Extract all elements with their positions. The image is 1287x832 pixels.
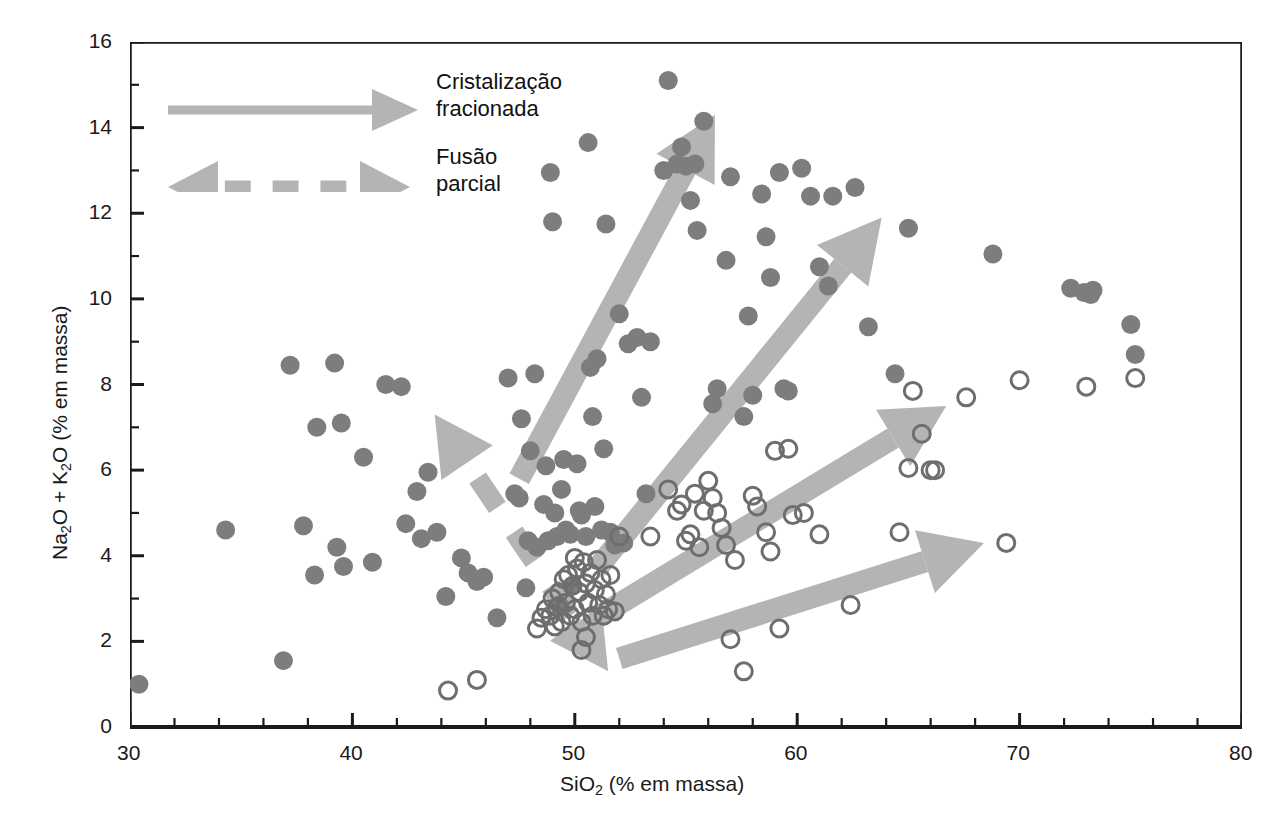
- data-point-open: [735, 663, 752, 680]
- data-point-filled: [1121, 315, 1140, 334]
- y-axis-title-sub-a: 2: [58, 525, 74, 533]
- data-point-filled: [332, 414, 351, 433]
- data-point-filled: [801, 187, 820, 206]
- data-point-filled: [510, 488, 529, 507]
- data-point-filled: [819, 277, 838, 296]
- data-point-open: [660, 481, 677, 498]
- chart-root: Na2O + K2O (% em massa) SiO2 (% em massa…: [0, 0, 1287, 832]
- data-point-open: [1078, 378, 1095, 395]
- data-point-filled: [823, 187, 842, 206]
- data-point-filled: [659, 71, 678, 90]
- data-point-filled: [761, 268, 780, 287]
- data-point-filled: [721, 167, 740, 186]
- data-point-filled: [672, 137, 691, 156]
- y-tick-label: 0: [68, 714, 112, 738]
- x-tick-label: 70: [1007, 741, 1030, 765]
- data-point-open: [900, 459, 917, 476]
- data-point-filled: [583, 407, 602, 426]
- y-tick-label: 6: [68, 457, 112, 481]
- data-point-filled: [717, 251, 736, 270]
- data-point-filled: [294, 516, 313, 535]
- data-point-filled: [770, 163, 789, 182]
- data-point-open: [686, 485, 703, 502]
- data-point-filled: [810, 257, 829, 276]
- data-point-open: [713, 519, 730, 536]
- data-point-filled: [281, 356, 300, 375]
- y-tick-label: 8: [68, 372, 112, 396]
- data-point-filled: [525, 364, 544, 383]
- legend-arrows: [160, 62, 430, 192]
- data-point-filled: [436, 587, 455, 606]
- data-point-filled: [354, 448, 373, 467]
- y-tick-label: 10: [68, 286, 112, 310]
- data-point-filled: [396, 514, 415, 533]
- y-tick-label: 2: [68, 628, 112, 652]
- data-point-filled: [543, 212, 562, 231]
- data-point-filled: [779, 381, 798, 400]
- data-point-filled: [487, 608, 506, 627]
- data-point-filled: [792, 159, 811, 178]
- data-point-filled: [541, 163, 560, 182]
- data-point-filled: [688, 221, 707, 240]
- data-point-filled: [363, 553, 382, 572]
- data-point-filled: [757, 227, 776, 246]
- legend-arrow-solid: [168, 89, 418, 131]
- data-point-open: [468, 671, 485, 688]
- legend-arrow-dashed-double: [168, 161, 410, 192]
- y-tick-label: 4: [68, 543, 112, 567]
- data-point-filled: [516, 578, 535, 597]
- data-point-filled: [536, 456, 555, 475]
- data-point-filled: [636, 484, 655, 503]
- data-point-filled: [579, 133, 598, 152]
- data-point-filled: [392, 377, 411, 396]
- data-point-open: [795, 504, 812, 521]
- y-axis-title: Na2O + K2O (% em massa): [48, 305, 72, 560]
- y-tick-label: 12: [68, 200, 112, 224]
- data-point-open: [722, 631, 739, 648]
- y-tick-label: 14: [68, 115, 112, 139]
- data-point-filled: [641, 332, 660, 351]
- x-tick-label: 80: [1229, 741, 1252, 765]
- data-point-filled: [305, 566, 324, 585]
- data-point-open: [700, 472, 717, 489]
- legend-label-partial-melting: Fusão parcial: [436, 143, 501, 197]
- data-point-open: [762, 543, 779, 560]
- data-point-filled: [739, 307, 758, 326]
- data-point-filled: [685, 155, 704, 174]
- data-point-open: [904, 382, 921, 399]
- data-point-filled: [983, 244, 1002, 263]
- data-point-filled: [327, 538, 346, 557]
- data-point-filled: [216, 521, 235, 540]
- legend-label-fractional-crystallization: Cristalização fracionada: [436, 68, 562, 122]
- data-point-filled: [610, 304, 629, 323]
- data-point-open: [749, 498, 766, 515]
- data-point-filled: [552, 480, 571, 499]
- data-point-filled: [512, 409, 531, 428]
- data-point-filled: [596, 214, 615, 233]
- data-point-open: [744, 487, 761, 504]
- data-point-filled: [407, 482, 426, 501]
- data-point-filled: [521, 441, 540, 460]
- data-point-open: [958, 389, 975, 406]
- data-point-filled: [743, 386, 762, 405]
- data-point-filled: [899, 219, 918, 238]
- data-point-open: [891, 524, 908, 541]
- data-point-filled: [334, 557, 353, 576]
- data-point-open: [1011, 372, 1028, 389]
- data-point-open: [771, 620, 788, 637]
- data-point-filled: [325, 354, 344, 373]
- x-tick-label: 40: [339, 741, 362, 765]
- data-point-filled: [681, 191, 700, 210]
- x-tick-label: 50: [562, 741, 585, 765]
- data-point-open: [811, 526, 828, 543]
- data-point-filled: [307, 418, 326, 437]
- data-point-filled: [859, 317, 878, 336]
- data-point-filled: [588, 349, 607, 368]
- data-point-filled: [752, 184, 771, 203]
- data-point-filled: [632, 388, 651, 407]
- data-point-open: [440, 682, 457, 699]
- x-tick-label: 30: [117, 741, 140, 765]
- data-point-filled: [1126, 345, 1145, 364]
- data-point-filled: [568, 454, 587, 473]
- data-point-open: [726, 552, 743, 569]
